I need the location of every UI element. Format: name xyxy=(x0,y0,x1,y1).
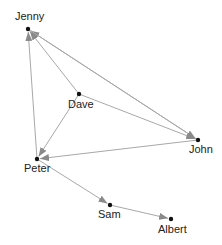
node-jenny xyxy=(26,27,30,31)
node-dave xyxy=(77,92,81,96)
node-peter xyxy=(35,157,39,161)
edges-layer xyxy=(28,29,198,218)
labels-layer: JennyDaveJohnPeterSamAlbert xyxy=(15,10,213,235)
node-label-john: John xyxy=(189,143,213,155)
node-sam xyxy=(108,203,112,207)
node-label-sam: Sam xyxy=(98,208,121,220)
edge-john-to-peter xyxy=(40,140,198,159)
node-label-jenny: Jenny xyxy=(15,10,45,22)
edge-dave-to-jenny xyxy=(30,31,79,94)
node-label-albert: Albert xyxy=(158,223,187,235)
node-label-peter: Peter xyxy=(24,162,51,174)
node-albert xyxy=(169,217,173,221)
edge-jenny-to-john xyxy=(28,29,195,138)
node-john xyxy=(196,138,200,142)
node-label-dave: Dave xyxy=(68,98,94,110)
network-diagram: JennyDaveJohnPeterSamAlbert xyxy=(0,0,222,245)
edge-peter-to-jenny xyxy=(28,32,37,159)
